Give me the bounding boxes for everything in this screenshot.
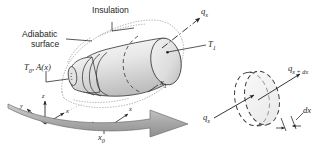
- qx-top-label: qx: [201, 7, 208, 18]
- x1-label: x1: [160, 78, 167, 89]
- t0-area-label: T0, A(x): [24, 63, 51, 74]
- t1-subscript: 1: [213, 44, 216, 51]
- adiabatic-surface-label-line2: surface: [31, 40, 59, 49]
- qx-plus-dx-subscript: x + dx: [292, 68, 308, 75]
- axis-y-label: y: [20, 103, 23, 110]
- qx-inset-subscript: x: [207, 117, 210, 124]
- qx-inset-label: qx: [203, 113, 210, 124]
- dx-dimension: [276, 113, 303, 131]
- inset-differential-element: [214, 68, 303, 131]
- qx-top-subscript: x: [205, 11, 208, 18]
- axis-x-inset-label: x: [129, 106, 132, 113]
- adiabatic-surface-label-line1: Adiabatic: [22, 30, 57, 39]
- x1-subscript: 1: [164, 82, 167, 89]
- axis-x-label: x: [66, 108, 69, 115]
- dx-label: dx: [303, 106, 311, 115]
- figure-conduction-tapered-rod: Insulation Adiabatic surface T0, A(x) T1…: [0, 0, 329, 152]
- qx-plus-dx-label: qx + dx: [288, 64, 308, 75]
- x0-label: x0: [98, 133, 105, 144]
- axis-z-label: z: [42, 93, 45, 100]
- t1-label: T1: [208, 40, 216, 51]
- insulation-label: Insulation: [92, 6, 129, 15]
- area-function: , A(x): [32, 62, 51, 72]
- diagram-canvas: [0, 0, 329, 152]
- x0-subscript: 0: [102, 137, 105, 144]
